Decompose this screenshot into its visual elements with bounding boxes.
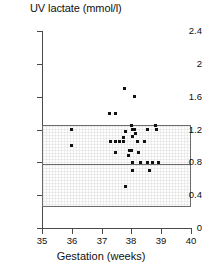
x-tick-36 [72,229,73,234]
x-tick-label-39: 39 [149,236,173,246]
x-axis-line [42,228,192,229]
x-tick-label-40: 40 [179,236,202,246]
y-tick-2.4 [37,31,42,32]
data-point [122,136,125,139]
data-point [118,140,121,143]
data-point [139,161,142,164]
data-point [136,140,139,143]
chart-title: UV lactate (mmol/l) [30,2,122,14]
reference-range-band [42,125,191,207]
data-point [123,87,126,90]
data-point [146,161,149,164]
data-point [154,124,157,127]
data-point [114,151,117,154]
data-point [130,149,133,152]
y-tick-label-0: 0 [171,223,202,232]
x-tick-label-37: 37 [90,236,114,246]
data-point [157,161,160,164]
data-point [124,185,127,188]
data-point [70,144,73,147]
y-tick-2 [37,64,42,65]
y-tick-label-1.6: 1.6 [171,92,202,101]
y-tick-label-2.4: 2.4 [171,26,202,35]
y-tick-0.4 [37,195,42,196]
data-point [155,128,158,131]
data-point [127,154,130,157]
x-tick-40 [191,229,192,234]
y-tick-1.2 [37,130,42,131]
x-tick-39 [161,229,162,234]
x-tick-label-38: 38 [119,236,143,246]
y-tick-1.6 [37,97,42,98]
y-tick-0.8 [37,162,42,163]
data-point [114,112,117,115]
data-point [109,140,112,143]
data-point [124,130,127,133]
y-tick-label-2: 2 [171,59,202,68]
data-point [146,128,149,131]
data-point [134,132,137,135]
data-point [122,140,125,143]
data-point [133,128,136,131]
data-point [143,140,146,143]
uv-lactate-scatter-figure: UV lactate (mmol/l) 00.40.81.21.622.4 35… [0,0,202,270]
data-point [148,169,151,172]
data-point [151,161,154,164]
data-point [130,124,133,127]
data-point [114,140,117,143]
data-point [131,169,134,172]
x-tick-38 [131,229,132,234]
x-tick-label-36: 36 [60,236,84,246]
y-tick-label-0.4: 0.4 [171,190,202,199]
x-axis-label: Gestation (weeks) [0,250,202,262]
x-tick-35 [42,229,43,234]
x-tick-37 [102,229,103,234]
y-tick-label-1.2: 1.2 [171,125,202,134]
data-point [137,151,140,154]
data-point [133,95,136,98]
data-point [131,161,134,164]
reference-median-line [42,164,191,165]
data-point [70,128,73,131]
data-point [108,112,111,115]
y-tick-label-0.8: 0.8 [171,157,202,166]
x-tick-label-35: 35 [30,236,54,246]
